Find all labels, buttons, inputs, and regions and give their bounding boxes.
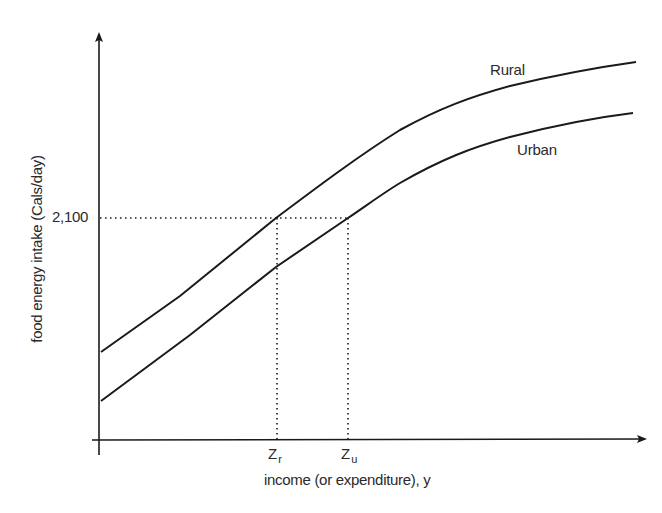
zu-sub: u xyxy=(351,453,357,465)
y-tick-2100: 2,100 xyxy=(52,208,88,225)
zu-main: Z xyxy=(341,445,350,462)
urban-label: Urban xyxy=(517,141,557,158)
y-axis-label: food energy intake (Cals/day) xyxy=(28,155,45,342)
diagram-canvas xyxy=(0,0,662,513)
zr-sub: r xyxy=(278,453,282,465)
zr-main: Z xyxy=(268,445,277,462)
food-energy-intake-diagram: food energy intake (Cals/day) 2,100 Rura… xyxy=(0,0,662,513)
zu-tick-label: Zu xyxy=(341,445,357,465)
x-axis xyxy=(92,439,645,440)
zr-tick-label: Zr xyxy=(268,445,282,465)
rural-label: Rural xyxy=(490,61,525,78)
x-axis-label: income (or expenditure), y xyxy=(264,471,430,488)
rural-curve xyxy=(101,62,636,352)
